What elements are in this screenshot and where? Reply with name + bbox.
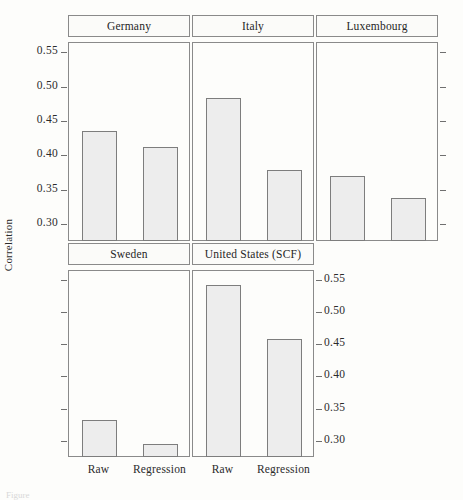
y-tick-mark-mirror xyxy=(440,87,446,88)
bar-raw[interactable] xyxy=(82,420,116,457)
y-tick-mark xyxy=(316,312,322,313)
y-tick-mark xyxy=(61,155,67,156)
y-tick-label: 0.55 xyxy=(37,44,58,56)
y-tick-mark-mirror xyxy=(440,121,446,122)
y-tick-label: 0.50 xyxy=(37,79,58,91)
y-tick-label: 0.40 xyxy=(324,368,345,380)
y-tick-label: 0.45 xyxy=(37,113,58,125)
y-tick-mark-mirror xyxy=(61,409,67,410)
y-tick-mark-mirror xyxy=(440,190,446,191)
panel-strip-label: Italy xyxy=(242,20,264,32)
panel-germany xyxy=(68,42,190,241)
panel-strip-label: United States (SCF) xyxy=(205,248,301,260)
trellis-bar-chart: Correlation GermanyItalyLuxembourgSweden… xyxy=(0,0,463,500)
y-tick-label: 0.30 xyxy=(37,216,58,228)
y-tick-label: 0.55 xyxy=(324,272,345,284)
x-tick-label-regression: Regression xyxy=(129,463,190,475)
panel-strip-italy: Italy xyxy=(192,15,314,37)
panel-top-rule xyxy=(193,42,313,43)
bar-raw[interactable] xyxy=(82,131,116,241)
bar-regression[interactable] xyxy=(143,444,177,457)
y-axis-right: 0.550.500.450.400.350.30 xyxy=(324,0,384,500)
bar-regression[interactable] xyxy=(391,198,425,241)
panel-italy xyxy=(192,42,314,241)
y-tick-mark xyxy=(61,224,67,225)
y-tick-mark-mirror xyxy=(61,441,67,442)
y-tick-mark-mirror xyxy=(61,376,67,377)
y-tick-mark xyxy=(61,87,67,88)
y-tick-mark-mirror xyxy=(61,280,67,281)
y-tick-label: 0.50 xyxy=(324,304,345,316)
y-tick-mark-mirror xyxy=(440,224,446,225)
panel-strip-sweden: Sweden xyxy=(68,243,190,265)
x-tick-label-regression: Regression xyxy=(253,463,314,475)
x-tick-label-raw: Raw xyxy=(192,463,253,475)
y-tick-mark xyxy=(61,121,67,122)
panel-strip-germany: Germany xyxy=(68,15,190,37)
y-tick-mark xyxy=(316,344,322,345)
y-tick-mark xyxy=(61,52,67,53)
y-tick-label: 0.30 xyxy=(324,433,345,445)
bar-regression[interactable] xyxy=(143,147,177,241)
y-tick-label: 0.45 xyxy=(324,336,345,348)
y-tick-mark-mirror xyxy=(440,155,446,156)
panel-sweden xyxy=(68,270,190,457)
y-tick-mark-mirror xyxy=(61,344,67,345)
y-tick-mark xyxy=(316,376,322,377)
panel-top-rule xyxy=(69,270,189,271)
panel-united-states-scf xyxy=(192,270,314,457)
y-tick-mark xyxy=(316,441,322,442)
y-tick-label: 0.40 xyxy=(37,147,58,159)
panel-strip-label: Germany xyxy=(107,20,151,32)
panel-strip-united-states-scf: United States (SCF) xyxy=(192,243,314,265)
panel-strip-label: Sweden xyxy=(110,248,148,260)
y-tick-label: 0.35 xyxy=(37,182,58,194)
y-tick-mark xyxy=(316,409,322,410)
bar-regression[interactable] xyxy=(267,339,301,457)
bar-regression[interactable] xyxy=(267,170,301,241)
y-tick-mark-mirror xyxy=(61,312,67,313)
y-tick-mark-mirror xyxy=(440,52,446,53)
y-tick-mark xyxy=(61,190,67,191)
bar-raw[interactable] xyxy=(206,98,240,241)
bar-raw[interactable] xyxy=(206,285,240,457)
panel-top-rule xyxy=(193,270,313,271)
y-tick-mark xyxy=(316,280,322,281)
figure-caption: Figure xyxy=(6,490,30,500)
y-axis-left: 0.550.500.450.400.350.30 xyxy=(0,0,58,500)
panel-top-rule xyxy=(69,42,189,43)
x-tick-label-raw: Raw xyxy=(68,463,129,475)
y-tick-label: 0.35 xyxy=(324,401,345,413)
